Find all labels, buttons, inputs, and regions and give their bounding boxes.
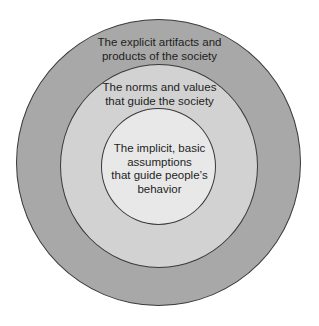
inner-circle-label-line: assumptions: [0, 156, 319, 170]
outer-ring-label-line: products of the society: [0, 49, 319, 63]
inner-circle-label-line: that guide people’s: [0, 169, 319, 183]
middle-ring-label: The norms and values that guide the soci…: [0, 80, 319, 108]
inner-circle-label-line: behavior: [0, 183, 319, 197]
middle-ring-label-line: The norms and values: [0, 80, 319, 94]
outer-ring-label: The explicit artifacts and products of t…: [0, 35, 319, 63]
inner-circle-label-line: The implicit, basic: [0, 142, 319, 156]
outer-ring-label-line: The explicit artifacts and: [0, 35, 319, 49]
inner-circle-label: The implicit, basic assumptions that gui…: [0, 142, 319, 197]
middle-ring-label-line: that guide the society: [0, 94, 319, 108]
